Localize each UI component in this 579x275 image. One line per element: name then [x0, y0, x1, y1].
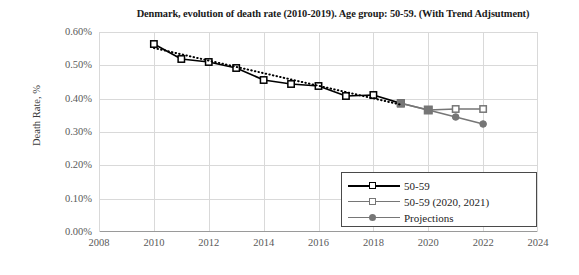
x-axis-tick: 2020: [403, 238, 453, 248]
y-axis-tick: 0.00%: [30, 227, 92, 237]
legend-item[interactable]: 50-59 (2020, 2021): [348, 193, 489, 210]
chart-legend: 50-5950-59 (2020, 2021)Projections: [341, 172, 537, 227]
x-axis-tick: 2010: [129, 238, 179, 248]
y-axis-tick: 0.40%: [30, 94, 92, 104]
y-axis-tick: 0.60%: [30, 27, 92, 37]
legend-square-marker: [369, 198, 376, 205]
gridline-vertical: [209, 32, 210, 232]
y-axis-label: Death Rate, %: [31, 56, 42, 176]
x-axis-tick: 2012: [184, 238, 234, 248]
gridline-vertical: [319, 32, 320, 232]
y-axis-tick: 0.50%: [30, 60, 92, 70]
x-axis-line: [99, 231, 538, 232]
legend-marker-sample: [348, 195, 400, 209]
gridline-vertical: [264, 32, 265, 232]
legend-label: 50-59: [400, 180, 430, 192]
plot-border-edge: [99, 32, 100, 232]
plot-border-edge: [537, 32, 538, 232]
chart-title: Denmark, evolution of death rate (2010-2…: [98, 8, 568, 20]
y-axis-tick: 0.20%: [30, 160, 92, 170]
chart-figure: Denmark, evolution of death rate (2010-2…: [0, 0, 579, 275]
legend-square-marker: [369, 182, 376, 189]
x-axis-tick: 2018: [348, 238, 398, 248]
y-axis-tick: 0.10%: [30, 194, 92, 204]
x-axis-tick: 2008: [74, 238, 124, 248]
legend-marker-sample: [348, 179, 400, 193]
x-axis-tick: 2022: [458, 238, 508, 248]
gridline-vertical: [154, 32, 155, 232]
y-axis-tick: 0.30%: [30, 127, 92, 137]
legend-item[interactable]: Projections: [348, 209, 454, 226]
legend-marker-sample: [348, 211, 400, 225]
legend-circle-marker: [369, 214, 376, 221]
x-axis-tick: 2016: [294, 238, 344, 248]
x-axis-tick: 2024: [513, 238, 563, 248]
x-axis-tick: 2014: [239, 238, 289, 248]
legend-label: 50-59 (2020, 2021): [400, 196, 489, 208]
legend-label: Projections: [400, 212, 454, 224]
legend-item[interactable]: 50-59: [348, 177, 430, 194]
